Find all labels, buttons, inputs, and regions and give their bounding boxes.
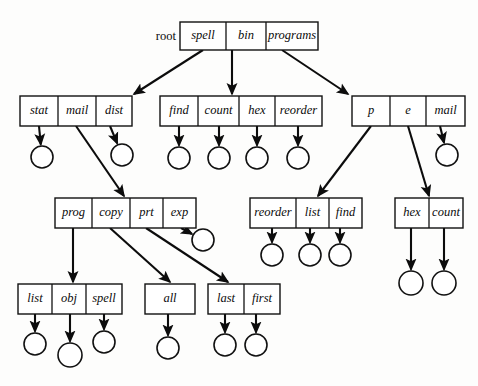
record-cell-label[interactable]: list — [27, 291, 43, 305]
record-cell-label[interactable]: hex — [403, 205, 421, 219]
leaf-node-circle — [261, 244, 283, 266]
leaf-pointer-edge — [181, 228, 192, 234]
record-cell-label[interactable]: programs — [267, 28, 316, 42]
record-node[interactable]: spellbinprograms — [180, 22, 318, 50]
record-cell-label[interactable]: last — [217, 291, 236, 305]
record-node[interactable]: pemail — [352, 96, 465, 126]
leaf-node-circle — [31, 146, 53, 168]
leaf-node-circle — [214, 334, 236, 356]
leaf-node-circle — [208, 147, 230, 169]
record-cell-label[interactable]: mail — [434, 103, 457, 117]
leaf-pointer-edge — [39, 126, 41, 145]
record-node[interactable]: progcopyprtexp — [55, 198, 196, 228]
leaf-nodes-layer — [24, 126, 458, 367]
record-node[interactable]: findcounthexreorder — [160, 96, 322, 126]
record-cell-label[interactable]: count — [205, 103, 233, 117]
leaf-node-circle — [329, 244, 351, 266]
record-cell-label[interactable]: spell — [191, 28, 215, 42]
root-label-layer: root — [156, 29, 177, 43]
record-cell-label[interactable]: find — [169, 103, 189, 117]
diagram-canvas: spellbinprogramsstatmaildistfindcounthex… — [0, 0, 478, 386]
record-cell-label[interactable]: all — [163, 291, 177, 305]
leaf-node-circle — [432, 271, 456, 295]
leaf-node-circle — [299, 244, 321, 266]
leaf-node-circle — [436, 144, 458, 166]
record-cell-label[interactable]: spell — [92, 291, 116, 305]
record-cell-label[interactable]: e — [405, 103, 411, 117]
record-node[interactable]: statmaildist — [20, 96, 132, 126]
leaf-node-circle — [399, 271, 423, 295]
leaf-node-circle — [157, 337, 179, 359]
leaf-node-circle — [192, 229, 214, 251]
leaf-node-circle — [168, 147, 190, 169]
pointer-edge — [146, 228, 228, 282]
record-cell-label[interactable]: list — [305, 205, 321, 219]
record-cell-label[interactable]: bin — [238, 28, 254, 42]
record-cell-label[interactable]: prog — [61, 205, 85, 219]
leaf-node-circle — [111, 144, 133, 166]
record-cell-label[interactable]: dist — [105, 103, 124, 117]
record-cell-label[interactable]: find — [336, 205, 356, 219]
record-cell-label[interactable]: count — [432, 205, 460, 219]
leaf-node-circle — [246, 147, 268, 169]
leaf-node-circle — [245, 334, 267, 356]
pointer-edge — [134, 50, 203, 94]
pointer-edge — [318, 126, 371, 196]
record-cell-label[interactable]: copy — [99, 205, 123, 219]
leaf-node-circle — [93, 331, 115, 353]
record-node[interactable]: listobjspell — [18, 284, 122, 314]
record-cell-label[interactable]: reorder — [280, 103, 317, 117]
record-node[interactable]: reorderlistfind — [250, 198, 362, 228]
pointer-edge — [282, 50, 348, 94]
record-cell-label[interactable]: prt — [138, 205, 154, 219]
record-cell-label[interactable]: mail — [66, 103, 89, 117]
record-nodes-layer: spellbinprogramsstatmaildistfindcounthex… — [18, 22, 465, 314]
record-cell-label[interactable]: stat — [30, 103, 49, 117]
pointer-edge — [408, 126, 429, 196]
tree-diagram-svg: spellbinprogramsstatmaildistfindcounthex… — [0, 0, 478, 386]
leaf-node-circle — [24, 333, 46, 355]
record-cell-label[interactable]: obj — [61, 291, 78, 305]
record-node[interactable]: hexcount — [395, 198, 463, 228]
leaf-node-circle — [58, 343, 82, 367]
record-cell-label[interactable]: p — [367, 103, 374, 117]
root-label: root — [156, 29, 177, 43]
leaf-node-circle — [287, 147, 309, 169]
leaf-pointer-edge — [440, 126, 444, 143]
pointer-edge — [110, 228, 170, 282]
record-cell-label[interactable]: hex — [248, 103, 266, 117]
leaf-pointer-edge — [110, 126, 117, 143]
record-node[interactable]: lastfirst — [208, 284, 280, 314]
record-cell-label[interactable]: first — [252, 291, 273, 305]
record-cell-label[interactable]: exp — [171, 205, 188, 219]
record-cell-label[interactable]: reorder — [254, 205, 291, 219]
record-node[interactable]: all — [145, 284, 195, 314]
